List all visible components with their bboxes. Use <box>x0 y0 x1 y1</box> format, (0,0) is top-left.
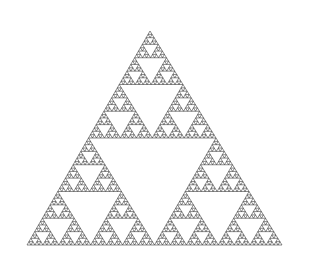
triangle-cell <box>155 81 159 84</box>
triangle-cell <box>147 54 151 57</box>
triangle-cell <box>71 228 75 231</box>
triangle-cell <box>245 202 249 205</box>
triangle-cell <box>178 242 182 245</box>
triangle-cell <box>156 238 160 241</box>
triangle-cell <box>98 188 102 191</box>
triangle-cell <box>110 98 114 101</box>
triangle-cell <box>132 135 136 138</box>
triangle-cell <box>100 225 104 228</box>
triangle-cell <box>122 202 126 205</box>
triangle-cell <box>146 131 150 134</box>
triangle-cell <box>202 222 206 225</box>
triangle-cell <box>100 121 104 124</box>
triangle-cell <box>108 121 112 124</box>
triangle-cell <box>182 215 186 218</box>
triangle-cell <box>125 71 129 74</box>
triangle-cell <box>58 202 62 205</box>
triangle-cell <box>188 108 192 111</box>
triangle-cell <box>266 228 270 231</box>
triangle-cell <box>159 74 163 77</box>
triangle-cell <box>75 242 79 245</box>
triangle-cell <box>179 88 183 91</box>
triangle-cell <box>39 242 43 245</box>
triangle-cell <box>113 181 117 184</box>
triangle-cell <box>225 175 229 178</box>
triangle-cell <box>102 111 106 114</box>
triangle-cell <box>132 115 136 118</box>
triangle-cell <box>222 151 226 154</box>
triangle-cell <box>114 215 118 218</box>
triangle-cell <box>219 185 223 188</box>
triangle-cell <box>160 232 164 235</box>
triangle-cell <box>262 242 266 245</box>
triangle-cell <box>164 225 168 228</box>
triangle-cell <box>106 228 110 231</box>
triangle-cell <box>75 171 79 174</box>
triangle-cell <box>192 108 196 111</box>
triangle-cell <box>91 158 95 161</box>
triangle-cell <box>81 232 85 235</box>
triangle-cell <box>69 175 73 178</box>
triangle-cell <box>114 131 118 134</box>
triangle-cell <box>167 68 171 71</box>
triangle-cell <box>218 145 222 148</box>
triangle-cell <box>168 218 172 221</box>
triangle-cell <box>227 185 231 188</box>
triangle-cell <box>164 115 168 118</box>
triangle-cell <box>97 161 101 164</box>
triangle-cell <box>164 121 168 124</box>
triangle-cell <box>105 168 109 171</box>
triangle-cell <box>253 208 257 211</box>
triangle-cell <box>114 202 118 205</box>
triangle-cell <box>81 155 85 158</box>
triangle-cell <box>243 185 247 188</box>
triangle-cell <box>194 131 198 134</box>
triangle-cell <box>209 188 213 191</box>
triangle-cell <box>270 228 274 231</box>
triangle-cell <box>155 54 159 57</box>
triangle-cell <box>66 215 70 218</box>
triangle-cell <box>130 105 134 108</box>
triangle-cell <box>174 242 178 245</box>
triangle-cell <box>268 238 272 241</box>
triangle-cell <box>131 68 135 71</box>
triangle-cell <box>236 225 240 228</box>
triangle-cell <box>208 128 212 131</box>
triangle-cell <box>208 155 212 158</box>
triangle-cell <box>46 208 50 211</box>
triangle-cell <box>112 128 116 131</box>
triangle-cell <box>190 235 194 238</box>
triangle-cell <box>101 168 105 171</box>
triangle-cell <box>202 131 206 134</box>
triangle-cell <box>128 121 132 124</box>
triangle-cell <box>130 208 134 211</box>
triangle-cell <box>218 158 222 161</box>
triangle-cell <box>78 188 82 191</box>
triangle-cell <box>150 34 154 37</box>
triangle-cell <box>262 222 266 225</box>
triangle-cell <box>200 218 204 221</box>
triangle-cell <box>93 181 97 184</box>
triangle-cell <box>237 208 241 211</box>
triangle-cell <box>108 135 112 138</box>
triangle-cell <box>194 242 198 245</box>
triangle-cell <box>179 198 183 201</box>
triangle-cell <box>259 212 263 215</box>
triangle-cell <box>237 175 241 178</box>
triangle-cell <box>188 128 192 131</box>
triangle-cell <box>206 151 210 154</box>
triangle-cell <box>104 115 108 118</box>
triangle-cell <box>93 238 97 241</box>
triangle-cell <box>170 215 174 218</box>
triangle-cell <box>152 38 156 41</box>
triangle-cell <box>53 238 57 241</box>
triangle-cell <box>85 141 89 144</box>
triangle-cell <box>112 101 116 104</box>
triangle-cell <box>183 88 187 91</box>
triangle-cell <box>225 181 229 184</box>
triangle-cell <box>185 188 189 191</box>
triangle-cell <box>130 228 134 231</box>
triangle-cell <box>196 108 200 111</box>
triangle-cell <box>110 125 114 128</box>
triangle-cell <box>206 125 210 128</box>
